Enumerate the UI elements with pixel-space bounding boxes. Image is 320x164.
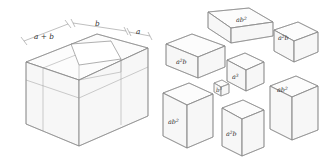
piece-right-ab2-exp: 2	[284, 86, 288, 91]
assembled-cube-group: a + b b a	[21, 19, 152, 146]
figure-canvas: a + b b a ab2	[0, 0, 320, 164]
label-a-plus-b-b: b	[49, 32, 54, 41]
piece-right-ab2: ab2	[270, 76, 318, 140]
label-a-plus-b-op: +	[38, 32, 49, 41]
piece-left-a2b: a2b	[166, 34, 225, 78]
piece-topright-a2b-tail: b	[285, 34, 289, 42]
piece-bottomleft-ab2: ab2	[163, 83, 213, 148]
piece-bottom-a2b: a2b	[222, 100, 264, 156]
piece-topright-a2b: a2b	[274, 22, 318, 62]
piece-bottomleft-ab2-exp: 2	[175, 118, 179, 123]
piece-bottomleft-ab2-base: ab	[168, 118, 176, 126]
piece-top-ab2: ab2	[208, 8, 273, 43]
piece-top-ab2-base: ab	[236, 16, 244, 24]
label-b: b	[95, 19, 100, 28]
piece-center-a3: a3	[227, 53, 264, 91]
binomial-cube-figure: a + b b a ab2	[0, 0, 320, 164]
piece-left-a2b-tail: b	[183, 58, 187, 66]
piece-top-ab2-exp: 2	[243, 16, 247, 21]
exploded-cube-group: ab2 a2b	[163, 8, 318, 156]
piece-b3: b3	[214, 80, 229, 96]
piece-right-ab2-base: ab	[277, 86, 285, 94]
piece-bottom-a2b-tail: b	[233, 130, 237, 138]
label-a-plus-b: a + b	[34, 32, 54, 41]
piece-center-a3-exp: 3	[236, 73, 239, 78]
label-a: a	[136, 27, 140, 36]
